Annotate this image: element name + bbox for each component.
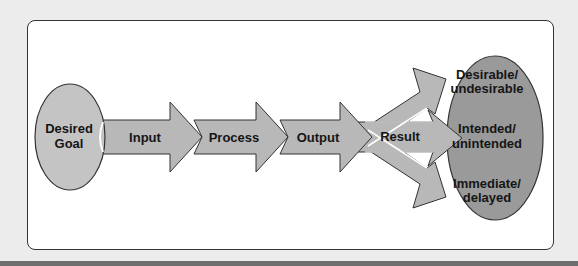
outcome-2-line2: unintended — [452, 136, 522, 151]
outcome-1-line1: Desirable/ — [456, 67, 519, 82]
step-input-label: Input — [129, 130, 161, 145]
outcome-3-line1: Immediate/ — [453, 176, 521, 191]
start-label-line2: Goal — [55, 136, 84, 151]
outcome-1-line2: undesirable — [451, 81, 524, 96]
start-label-line1: Desired — [45, 121, 93, 136]
step-result-label: Result — [380, 129, 420, 144]
step-output-label: Output — [297, 130, 340, 145]
outcome-2-line1: Intended/ — [458, 121, 516, 136]
outcome-3-line2: delayed — [463, 190, 511, 205]
process-flow-diagram: Desired Goal Input Process Output Result… — [0, 0, 578, 266]
bottom-edge — [0, 261, 578, 266]
step-process-label: Process — [209, 130, 260, 145]
